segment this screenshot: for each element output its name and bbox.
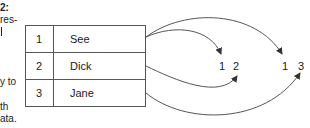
table-row: 2 Dick xyxy=(36,60,92,72)
arrow-jane-to-group-b xyxy=(146,73,300,115)
group-b-label-1: 1 xyxy=(282,60,288,72)
row-index: 3 xyxy=(36,87,42,99)
pointer-diagram: 1 See 2 Dick 3 Jane 1 2 1 3 xyxy=(0,0,310,128)
group-a-label-1: 1 xyxy=(219,60,225,72)
data-table: 1 See 2 Dick 3 Jane xyxy=(26,26,146,107)
group-a-label-2: 2 xyxy=(233,60,239,72)
arrow-see-to-group-a xyxy=(146,30,221,54)
table-row: 1 See xyxy=(36,33,90,45)
group-b: 1 3 xyxy=(282,60,304,72)
group-b-label-2: 3 xyxy=(298,60,304,72)
row-value: See xyxy=(70,33,90,45)
row-value: Dick xyxy=(70,60,92,72)
group-a: 1 2 xyxy=(219,60,239,72)
row-index: 1 xyxy=(36,33,42,45)
row-index: 2 xyxy=(36,60,42,72)
row-value: Jane xyxy=(70,87,94,99)
table-row: 3 Jane xyxy=(36,87,94,99)
arrow-see-to-group-b xyxy=(146,18,282,54)
